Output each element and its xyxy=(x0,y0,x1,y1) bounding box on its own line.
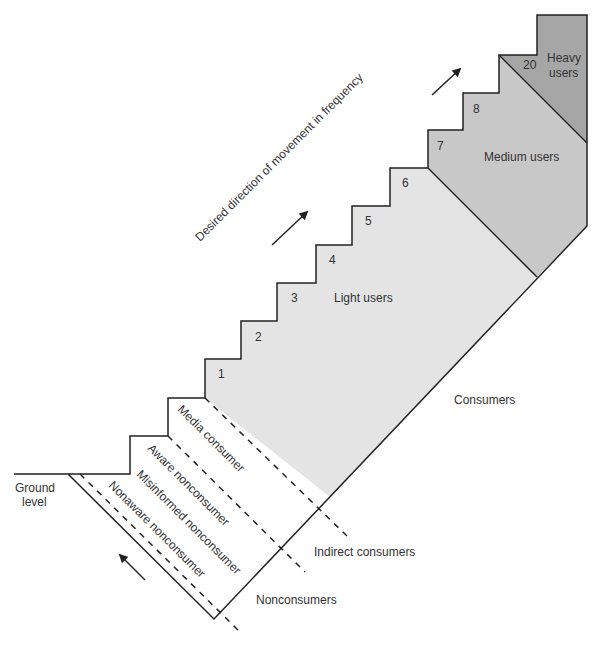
arrow-up-right-icon xyxy=(432,69,460,95)
arrow-up-right-icon xyxy=(272,212,307,245)
medium-users-label: Medium users xyxy=(484,150,559,164)
step-number: 7 xyxy=(437,139,444,153)
arrow-up-left-icon xyxy=(120,555,145,580)
ground-label-line2: level xyxy=(22,495,47,509)
light-users-label: Light users xyxy=(334,291,393,305)
consumer-staircase-diagram: Desired direction of movement in frequen… xyxy=(0,0,602,648)
heavy-users-label-2: users xyxy=(549,66,578,80)
direction-title: Desired direction of movement in frequen… xyxy=(192,71,366,245)
step-number: 1 xyxy=(218,367,225,381)
nonconsumers-label: Nonconsumers xyxy=(256,593,337,607)
step-number: 5 xyxy=(365,214,372,228)
step-number: 8 xyxy=(473,102,480,116)
consumers-label: Consumers xyxy=(454,393,515,407)
indirect-consumers-label: Indirect consumers xyxy=(314,545,415,559)
step-number: 3 xyxy=(291,291,298,305)
step-number: 4 xyxy=(329,253,336,267)
step-number: 6 xyxy=(402,176,409,190)
heavy-users-label: Heavy xyxy=(547,51,581,65)
step-number: 20 xyxy=(523,58,537,72)
step-number: 2 xyxy=(255,330,262,344)
ground-label-line1: Ground xyxy=(15,481,55,495)
